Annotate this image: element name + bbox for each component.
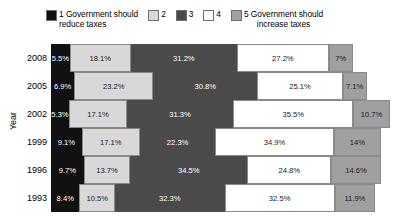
legend-swatch-icon-2	[148, 10, 159, 21]
bar-segment-value-label: 22.3%	[167, 138, 189, 147]
bar-segment-value-label: 17.1%	[87, 110, 109, 119]
bar-segment-1999-cat5[interactable]: 14%	[334, 128, 381, 156]
legend-label-5: 5 Government should increase taxes	[244, 9, 323, 30]
stacked-bar-1993: 8.4%10.5%32.3%32.5%11.9%	[51, 184, 390, 212]
legend-label-4: 4	[216, 9, 221, 19]
stacked-bar-1999: 9.1%17.1%22.3%34.9%14%	[51, 128, 390, 156]
year-label-1999: 1999	[16, 128, 51, 156]
bar-segment-value-label: 8.4%	[57, 194, 74, 203]
plot-area: 20085.5%18.1%31.2%27.2%7%20056.9%23.2%30…	[16, 44, 390, 212]
legend-item-1: 1 Government should reduce taxes	[46, 9, 138, 30]
bar-segment-value-label: 23.2%	[103, 82, 125, 91]
chart-legend: 1 Government should reduce taxes2345 Gov…	[46, 9, 390, 37]
bar-segment-2002-cat5[interactable]: 10.7%	[353, 100, 389, 128]
bar-segment-value-label: 9.7%	[59, 166, 76, 175]
bar-segment-1993-cat5[interactable]: 11.9%	[335, 184, 375, 212]
bar-segment-1993-cat3[interactable]: 32.3%	[115, 184, 224, 212]
bar-segment-value-label: 27.2%	[272, 54, 294, 63]
bar-segment-2008-cat1[interactable]: 5.5%	[51, 44, 70, 72]
bar-segment-value-label: 10.5%	[86, 194, 108, 203]
stacked-bar-1996: 9.7%13.7%34.5%24.8%14.6%	[51, 156, 390, 184]
bar-segment-2002-cat3[interactable]: 31.3%	[127, 100, 233, 128]
legend-item-3: 3	[176, 9, 194, 21]
bar-segment-1999-cat3[interactable]: 22.3%	[140, 128, 216, 156]
bar-segment-2008-cat3[interactable]: 31.2%	[131, 44, 237, 72]
bar-segment-2005-cat4[interactable]: 25.1%	[257, 72, 342, 100]
stacked-bar-2005: 6.9%23.2%30.8%25.1%7.1%	[51, 72, 390, 100]
bar-segment-value-label: 25.1%	[289, 82, 311, 91]
stacked-bar-2002: 5.3%17.1%31.3%35.5%10.7%	[51, 100, 390, 128]
bar-segment-value-label: 34.5%	[178, 166, 200, 175]
bar-segment-1996-cat5[interactable]: 14.6%	[331, 156, 380, 184]
bar-segment-value-label: 9.1%	[58, 138, 75, 147]
bar-segment-2008-cat2[interactable]: 18.1%	[70, 44, 131, 72]
bar-segment-value-label: 7.1%	[346, 82, 363, 91]
bar-segment-value-label: 32.3%	[159, 194, 181, 203]
legend-swatch-icon-1	[46, 10, 57, 21]
bar-segment-value-label: 18.1%	[90, 54, 112, 63]
stacked-bar-2008: 5.5%18.1%31.2%27.2%7%	[51, 44, 390, 72]
legend-item-2: 2	[148, 9, 166, 21]
chart-row: 20085.5%18.1%31.2%27.2%7%	[16, 44, 390, 72]
bar-segment-2008-cat4[interactable]: 27.2%	[237, 44, 329, 72]
bar-segment-2005-cat5[interactable]: 7.1%	[343, 72, 367, 100]
bar-segment-1993-cat1[interactable]: 8.4%	[51, 184, 79, 212]
legend-label-1: 1 Government should reduce taxes	[59, 9, 138, 30]
year-label-2002: 2002	[16, 100, 51, 128]
legend-swatch-icon-4	[203, 10, 214, 21]
bar-segment-value-label: 5.3%	[51, 110, 68, 119]
chart-row: 20025.3%17.1%31.3%35.5%10.7%	[16, 100, 390, 128]
legend-swatch-icon-5	[231, 10, 242, 21]
bar-segment-1999-cat2[interactable]: 17.1%	[82, 128, 140, 156]
bar-segment-value-label: 17.1%	[100, 138, 122, 147]
legend-label-2: 2	[161, 9, 166, 19]
bar-segment-2005-cat3[interactable]: 30.8%	[153, 72, 257, 100]
bar-segment-value-label: 14%	[350, 138, 365, 147]
bar-segment-value-label: 13.7%	[96, 166, 118, 175]
legend-label-3: 3	[189, 9, 194, 19]
bar-segment-1999-cat4[interactable]: 34.9%	[215, 128, 333, 156]
year-label-1993: 1993	[16, 184, 51, 212]
bar-segment-2008-cat5[interactable]: 7%	[329, 44, 353, 72]
bar-segment-value-label: 5.5%	[52, 54, 69, 63]
chart-row: 20056.9%23.2%30.8%25.1%7.1%	[16, 72, 390, 100]
year-label-2005: 2005	[16, 72, 51, 100]
bar-segment-value-label: 35.5%	[282, 110, 304, 119]
legend-item-4: 4	[203, 9, 221, 21]
chart-row: 19938.4%10.5%32.3%32.5%11.9%	[16, 184, 390, 212]
bar-segment-1993-cat4[interactable]: 32.5%	[225, 184, 335, 212]
bar-segment-2002-cat2[interactable]: 17.1%	[69, 100, 127, 128]
bar-segment-value-label: 32.5%	[269, 194, 291, 203]
bar-segment-2002-cat4[interactable]: 35.5%	[233, 100, 353, 128]
bar-segment-2005-cat1[interactable]: 6.9%	[51, 72, 74, 100]
chart-row: 19969.7%13.7%34.5%24.8%14.6%	[16, 156, 390, 184]
bar-segment-value-label: 31.3%	[169, 110, 191, 119]
bar-segment-1996-cat1[interactable]: 9.7%	[51, 156, 84, 184]
bar-segment-value-label: 31.2%	[173, 54, 195, 63]
year-label-1996: 1996	[16, 156, 51, 184]
bar-segment-value-label: 11.9%	[344, 194, 365, 203]
bar-segment-value-label: 6.9%	[54, 82, 71, 91]
bar-segment-1996-cat3[interactable]: 34.5%	[130, 156, 247, 184]
bar-segment-value-label: 30.8%	[194, 82, 216, 91]
bar-segment-value-label: 14.6%	[345, 166, 367, 175]
chart-row: 19999.1%17.1%22.3%34.9%14%	[16, 128, 390, 156]
year-label-2008: 2008	[16, 44, 51, 72]
bar-segment-value-label: 7%	[335, 54, 346, 63]
bar-segment-1996-cat2[interactable]: 13.7%	[84, 156, 130, 184]
bar-segment-1993-cat2[interactable]: 10.5%	[79, 184, 115, 212]
bar-segment-value-label: 10.7%	[361, 110, 383, 119]
bar-segment-value-label: 34.9%	[264, 138, 286, 147]
bar-segment-2005-cat2[interactable]: 23.2%	[74, 72, 153, 100]
legend-swatch-icon-3	[176, 10, 187, 21]
bar-segment-1999-cat1[interactable]: 9.1%	[51, 128, 82, 156]
bar-segment-1996-cat4[interactable]: 24.8%	[247, 156, 331, 184]
bar-segment-value-label: 24.8%	[279, 166, 301, 175]
bar-segment-2002-cat1[interactable]: 5.3%	[51, 100, 69, 128]
legend-item-5: 5 Government should increase taxes	[231, 9, 323, 30]
